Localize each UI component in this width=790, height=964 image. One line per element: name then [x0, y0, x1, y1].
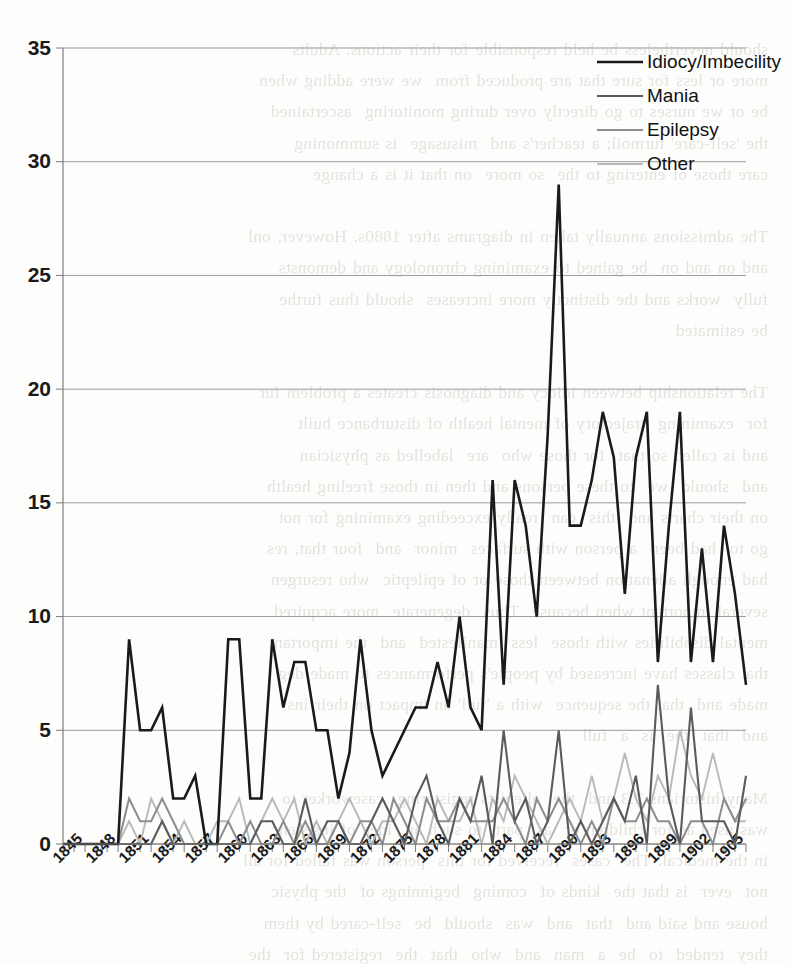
data-series-group [63, 184, 746, 844]
y-tick-label-35: 35 [28, 36, 52, 59]
x-tick-label-1896: 1896 [611, 829, 648, 866]
y-tick-label-15: 15 [28, 490, 52, 513]
y-tick-label-10: 10 [28, 604, 51, 627]
y-tick-label-30: 30 [28, 149, 51, 172]
chart-plot-area: 05101520253035 1845184818511854185718601… [0, 0, 790, 964]
legend-label-2: Epilepsy [647, 119, 719, 140]
y-tick-label-0: 0 [39, 832, 51, 855]
x-tick-label-1848: 1848 [82, 829, 119, 866]
series-line-idiocy-imbecility [63, 184, 746, 844]
legend-label-0: Idiocy/Imbecility [647, 51, 782, 72]
y-tick-label-25: 25 [28, 263, 52, 286]
x-axis-ticks-group: 1845184818511854185718601863186618691872… [49, 829, 747, 866]
x-tick-label-1860: 1860 [214, 830, 250, 866]
y-tick-label-5: 5 [39, 718, 51, 741]
line-chart-figure: 05101520253035 1845184818511854185718601… [0, 0, 790, 964]
x-tick-label-1857: 1857 [181, 830, 217, 866]
y-tick-label-20: 20 [28, 377, 51, 400]
chart-legend: Idiocy/ImbecilityManiaEpilepsyOther [597, 51, 782, 174]
x-tick-label-1845: 1845 [49, 829, 86, 866]
legend-label-3: Other [647, 153, 695, 174]
legend-label-1: Mania [647, 85, 699, 106]
y-axis-ticks-group: 05101520253035 [28, 36, 63, 855]
